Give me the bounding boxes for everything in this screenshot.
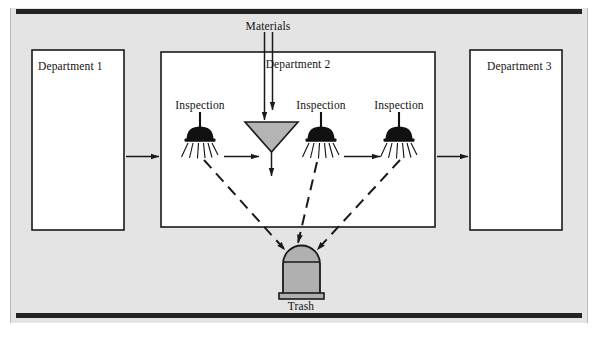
inspection-3-rim xyxy=(384,139,415,142)
trash-can-icon[interactable] xyxy=(279,246,324,300)
materials-label: Materials xyxy=(246,20,291,32)
trash-base xyxy=(279,293,324,299)
inspection-1-rim xyxy=(185,139,216,142)
department-1-label: Department 1 xyxy=(38,60,103,72)
bottom-rule xyxy=(16,313,582,318)
department-3-label: Department 3 xyxy=(487,60,552,72)
inspection-2-label: Inspection xyxy=(296,99,345,111)
trash-body xyxy=(283,246,320,295)
trash-label: Trash xyxy=(288,300,315,312)
inspection-2-rim xyxy=(306,139,337,142)
department-3-box[interactable] xyxy=(470,50,562,230)
department-1-box[interactable] xyxy=(32,50,124,230)
inspection-3-label: Inspection xyxy=(374,99,423,111)
top-rule xyxy=(16,9,582,14)
diagram-canvas xyxy=(0,0,593,338)
inspection-1-label: Inspection xyxy=(175,99,224,111)
process-flow-figure: Department 1 Department 2 Department 3 M… xyxy=(0,0,593,338)
department-2-label: Department 2 xyxy=(266,58,331,70)
